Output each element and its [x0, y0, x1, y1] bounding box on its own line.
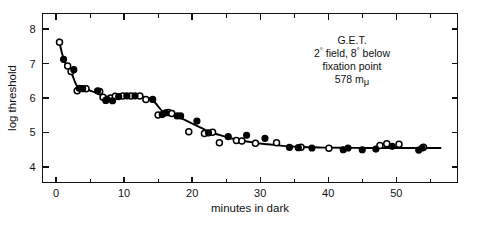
open-circles-point-19 — [216, 140, 222, 146]
filled-circles-point-15 — [178, 113, 184, 119]
filled-circles-point-16 — [194, 118, 200, 124]
open-circles-point-25 — [326, 145, 332, 151]
open-circles-point-23 — [274, 140, 280, 146]
wavelength-value: 578 m — [335, 73, 364, 85]
filled-circles-point-3 — [80, 86, 86, 92]
filled-circles-point-4 — [95, 88, 101, 94]
mu-symbol: μ — [364, 76, 369, 87]
x-tick-label-10: 10 — [118, 187, 130, 199]
y-tick-label-8: 8 — [29, 23, 35, 35]
open-circles-point-28 — [396, 141, 402, 147]
filled-circles-point-9 — [124, 93, 130, 99]
annotation-subject-line: G.E.T. — [337, 34, 366, 46]
filled-circles-point-21 — [286, 144, 292, 150]
annotation-fixation-line: fixation point — [323, 60, 382, 72]
y-tick-label-5: 5 — [29, 126, 35, 138]
annotation-field-line: 2° field, 8° below — [314, 46, 390, 60]
annotation-wavelength-line: 578 mμ — [335, 73, 370, 87]
y-axis-title: log threshold — [6, 65, 18, 131]
filled-circles-point-1 — [71, 67, 77, 73]
y-tick-label-6: 6 — [29, 92, 35, 104]
open-circles-point-16 — [186, 129, 192, 135]
filled-circles-point-0 — [61, 56, 67, 62]
annotation-field-suffix: below — [360, 47, 391, 59]
filled-circles-point-18 — [225, 134, 231, 140]
annotation-field-mid: field, 8 — [323, 47, 357, 59]
x-axis-title: minutes in dark — [211, 202, 289, 214]
filled-circles-point-23 — [309, 145, 315, 151]
filled-circles-point-27 — [373, 146, 379, 152]
filled-circles-point-8 — [116, 94, 122, 100]
chart-canvas: 01020304050 45678 minutes in dark log th… — [0, 0, 477, 226]
filled-circles-point-20 — [262, 135, 268, 141]
x-tick-label-20: 20 — [186, 187, 198, 199]
x-tick-label-30: 30 — [254, 187, 266, 199]
filled-circles-point-30 — [419, 145, 425, 151]
open-circles-point-12 — [143, 96, 149, 102]
filled-circles-point-19 — [244, 132, 250, 138]
filled-circles-point-26 — [359, 147, 365, 153]
x-axis-tick-labels: 01020304050 — [53, 187, 402, 199]
y-axis-tick-labels: 45678 — [29, 23, 35, 173]
filled-circles-point-7 — [110, 98, 116, 104]
open-circles-point-0 — [57, 39, 63, 45]
filled-circles-point-25 — [345, 145, 351, 151]
dark-adaptation-figure: 01020304050 45678 minutes in dark log th… — [0, 0, 477, 226]
x-tick-label-40: 40 — [322, 187, 334, 199]
open-circles-point-22 — [252, 140, 258, 146]
open-circles-point-21 — [239, 138, 245, 144]
y-tick-label-4: 4 — [29, 161, 35, 173]
filled-circles-point-13 — [163, 110, 169, 116]
x-tick-label-0: 0 — [53, 187, 59, 199]
filled-circles-point-28 — [389, 143, 395, 149]
filled-circles-point-11 — [150, 96, 156, 102]
filled-circles-point-22 — [295, 145, 301, 151]
annotation-block: G.E.T. 2° field, 8° below fixation point… — [314, 34, 390, 87]
filled-circles-point-10 — [132, 93, 138, 99]
x-tick-label-50: 50 — [390, 187, 402, 199]
y-tick-label-7: 7 — [29, 58, 35, 70]
filled-circles-point-17 — [206, 130, 212, 136]
